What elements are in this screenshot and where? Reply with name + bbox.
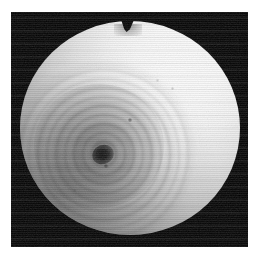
limb-vignette xyxy=(20,21,240,235)
image-canvas xyxy=(0,0,258,258)
spherical-specimen xyxy=(20,21,240,235)
image-frame xyxy=(11,12,248,247)
